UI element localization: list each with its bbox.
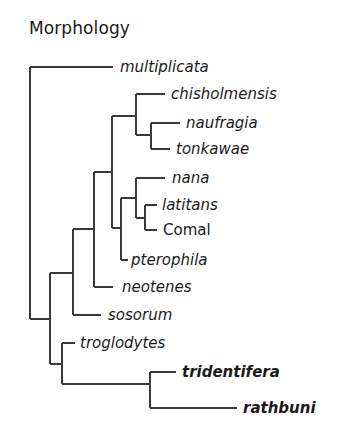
taxon-label-latitans: latitans xyxy=(162,196,218,214)
cladogram: multiplicatachisholmensisnaufragiatonkaw… xyxy=(0,0,350,439)
taxon-label-naufragia: naufragia xyxy=(186,114,258,132)
phylogenetic-tree-figure: Morphology multiplicatachisholmensisnauf… xyxy=(0,0,350,439)
taxon-label-multiplicata: multiplicata xyxy=(120,58,209,76)
taxon-label-pterophila: pterophila xyxy=(130,251,208,269)
taxon-labels: multiplicatachisholmensisnaufragiatonkaw… xyxy=(80,58,316,417)
taxon-label-troglodytes: troglodytes xyxy=(80,334,166,352)
taxon-label-sosorum: sosorum xyxy=(108,306,172,324)
taxon-label-tonkawae: tonkawae xyxy=(176,140,249,158)
taxon-label-tridentifera: tridentifera xyxy=(182,363,280,381)
taxon-label-chisholmensis: chisholmensis xyxy=(171,85,277,103)
taxon-label-comal: Comal xyxy=(163,221,211,239)
taxon-label-neotenes: neotenes xyxy=(122,278,192,296)
taxon-label-nana: nana xyxy=(172,169,209,187)
taxon-label-rathbuni: rathbuni xyxy=(243,399,316,417)
